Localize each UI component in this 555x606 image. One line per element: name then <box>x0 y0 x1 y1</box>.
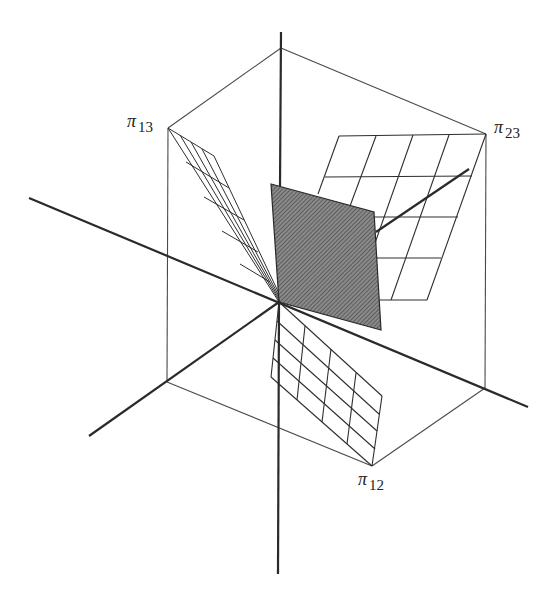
label-pi12-subscript: 12 <box>369 477 384 493</box>
label-pi13-subscript: 13 <box>138 119 153 135</box>
label-pi23-symbol: π <box>494 117 503 137</box>
diagram-canvas <box>0 0 555 606</box>
plane-pi13-grid <box>168 128 283 302</box>
plane-pi12-grid <box>271 302 382 466</box>
label-pi12-symbol: π <box>358 469 367 489</box>
label-pi23-subscript: 23 <box>505 125 520 141</box>
label-pi23: π23 <box>494 118 520 136</box>
label-pi13: π13 <box>127 112 153 130</box>
label-pi13-symbol: π <box>127 111 136 131</box>
axis-vertical-lower <box>278 300 279 574</box>
label-pi12: π12 <box>358 470 384 488</box>
shaded-plane <box>271 184 381 330</box>
axis-vertical-upper <box>280 32 281 186</box>
